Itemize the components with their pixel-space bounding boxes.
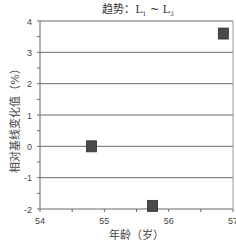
data-point-marker (86, 141, 96, 152)
data-point-marker (148, 200, 158, 211)
y-tick-label: 1 (27, 111, 32, 121)
y-tick-label: 2 (27, 79, 32, 89)
x-tick-label: 57 (228, 216, 236, 226)
y-tick-label: 3 (27, 48, 32, 58)
scatter-chart: -2-10123454555657 (0, 0, 236, 242)
y-tick-label: 4 (27, 17, 32, 27)
y-tick-label: -2 (24, 205, 32, 215)
x-tick-label: 54 (35, 216, 45, 226)
x-axis-label: 年龄（岁） (40, 226, 233, 242)
x-tick-label: 56 (164, 216, 174, 226)
x-tick-label: 55 (99, 216, 109, 226)
y-tick-label: -1 (24, 173, 32, 183)
data-point-marker (218, 28, 228, 39)
y-tick-label: 0 (27, 142, 32, 152)
y-axis-label: 相对基线变化值（%） (6, 48, 22, 188)
